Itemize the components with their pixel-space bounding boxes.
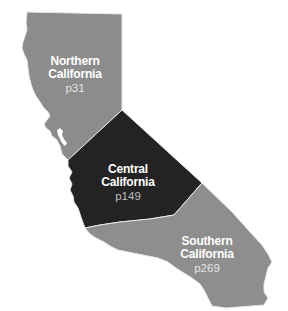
region-name: California <box>180 248 233 261</box>
region-name: California <box>48 68 101 81</box>
california-map <box>0 0 288 311</box>
page-ref: p269 <box>180 262 233 275</box>
page-ref: p149 <box>101 190 154 203</box>
region-name: California <box>101 176 154 189</box>
page-ref: p31 <box>48 82 101 95</box>
label-northern-california: Northern California p31 <box>48 55 101 95</box>
label-southern-california: Southern California p269 <box>180 235 233 275</box>
label-central-california: Central California p149 <box>101 163 154 203</box>
